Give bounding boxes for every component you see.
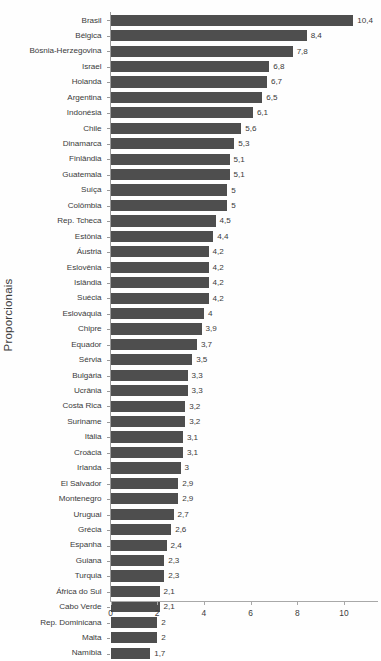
- bar: [111, 370, 188, 381]
- bar-value-label: 8,4: [311, 30, 322, 41]
- bar: [111, 617, 158, 628]
- category-label: Suriname: [0, 414, 106, 429]
- y-axis-tick: [107, 206, 111, 207]
- bar-and-value: 2,7: [111, 507, 189, 522]
- y-axis-tick: [107, 221, 111, 222]
- bar: [111, 401, 186, 412]
- bar-and-value: 6,5: [111, 90, 278, 105]
- bar-value-label: 2,4: [171, 540, 182, 551]
- bar-row: Guatemala5,1: [0, 167, 381, 182]
- y-axis-tick: [107, 329, 111, 330]
- bar-row: Montenegro2,9: [0, 491, 381, 506]
- y-axis-tick: [107, 546, 111, 547]
- bar-value-label: 4,2: [213, 293, 224, 304]
- bar: [111, 76, 267, 87]
- bar-and-value: 2,9: [111, 476, 194, 491]
- category-label: Colômbia: [0, 198, 106, 213]
- bar-and-value: 2,9: [111, 491, 194, 506]
- bar-value-label: 2,1: [164, 601, 175, 612]
- y-axis-tick: [107, 283, 111, 284]
- bar-value-label: 4,2: [213, 277, 224, 288]
- x-axis-tick-label: 6: [248, 608, 253, 618]
- x-axis-tick: [157, 601, 158, 605]
- bar-value-label: 3,2: [189, 401, 200, 412]
- y-axis-tick: [107, 422, 111, 423]
- bar: [111, 308, 204, 319]
- bar-row: Bélgica8,4: [0, 28, 381, 43]
- bar-row: Costa Rica3,2: [0, 398, 381, 413]
- y-axis-tick: [107, 128, 111, 129]
- bar-value-label: 5,6: [245, 123, 256, 134]
- bar-and-value: 2,6: [111, 522, 187, 537]
- y-axis-tick: [107, 314, 111, 315]
- bar-row: Grécia2,6: [0, 522, 381, 537]
- x-axis-tick: [251, 601, 252, 605]
- bar: [111, 540, 167, 551]
- bar: [111, 601, 160, 612]
- bar: [111, 184, 228, 195]
- x-axis-tick: [111, 601, 112, 605]
- bar-row: Turquia2,3: [0, 568, 381, 583]
- y-axis-tick: [107, 376, 111, 377]
- bar-row: Uruguai2,7: [0, 507, 381, 522]
- y-axis-tick: [107, 113, 111, 114]
- category-label: Estônia: [0, 229, 106, 244]
- bar: [111, 169, 230, 180]
- bar-row: Itália3,1: [0, 429, 381, 444]
- y-axis-tick: [107, 453, 111, 454]
- bar: [111, 107, 253, 118]
- category-label: Namíbia: [0, 645, 106, 660]
- bar-row: Suíça5: [0, 182, 381, 197]
- bar-row: Holanda6,7: [0, 74, 381, 89]
- bar: [111, 154, 230, 165]
- bar-value-label: 3: [185, 462, 189, 473]
- category-label: Brasil: [0, 13, 106, 28]
- bar-and-value: 3,2: [111, 414, 201, 429]
- bar-and-value: 1,7: [111, 645, 166, 660]
- bar-row: Equador3,7: [0, 337, 381, 352]
- category-label: Turquia: [0, 568, 106, 583]
- bar-value-label: 4,5: [220, 215, 231, 226]
- y-axis-tick: [107, 252, 111, 253]
- category-label: Malta: [0, 630, 106, 645]
- category-label: Sérvia: [0, 352, 106, 367]
- bar-value-label: 2: [161, 617, 165, 628]
- bar: [111, 246, 209, 257]
- bar-value-label: 4,4: [217, 231, 228, 242]
- category-label: Islândia: [0, 275, 106, 290]
- bar-value-label: 2,9: [182, 478, 193, 489]
- bar-row: Guiana2,3: [0, 553, 381, 568]
- category-label: Equador: [0, 337, 106, 352]
- category-label: África do Sul: [0, 584, 106, 599]
- bar-and-value: 2,1: [111, 584, 175, 599]
- category-label: Rep. Dominicana: [0, 615, 106, 630]
- bar: [111, 462, 181, 473]
- bar-and-value: 2,3: [111, 553, 180, 568]
- category-label: Áustria: [0, 244, 106, 259]
- y-axis-tick: [107, 437, 111, 438]
- bar-value-label: 3,5: [196, 354, 207, 365]
- bar-value-label: 3,2: [189, 416, 200, 427]
- bar-and-value: 2,3: [111, 568, 180, 583]
- bar: [111, 416, 186, 427]
- bar-row: El Salvador2,9: [0, 476, 381, 491]
- bar: [111, 632, 158, 643]
- bar-value-label: 3,1: [187, 447, 198, 458]
- bar: [111, 447, 183, 458]
- bar: [111, 524, 172, 535]
- category-label: Suécia: [0, 290, 106, 305]
- bar-and-value: 3,3: [111, 383, 203, 398]
- bar-value-label: 5,1: [234, 154, 245, 165]
- bar-and-value: 3,1: [111, 429, 198, 444]
- x-axis-tick: [297, 601, 298, 605]
- bar: [111, 555, 165, 566]
- category-label: Grécia: [0, 522, 106, 537]
- bar-and-value: 4,2: [111, 260, 224, 275]
- bar-row: Bósnia-Herzegovina7,8: [0, 43, 381, 58]
- category-label: Guatemala: [0, 167, 106, 182]
- bar-row: Eslovênia4,2: [0, 260, 381, 275]
- bar-and-value: 4,2: [111, 275, 224, 290]
- category-label: Argentina: [0, 90, 106, 105]
